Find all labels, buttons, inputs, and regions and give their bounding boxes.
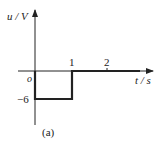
waveform-line (35, 71, 140, 99)
y-axis-label: u / V (7, 10, 29, 22)
x-tick-label-2: 2 (104, 56, 110, 68)
figure-caption: (a) (42, 126, 55, 139)
waveform-chart: u / V 1 2 o −6 t / s (a) (0, 0, 163, 146)
origin-label: o (27, 73, 32, 84)
x-axis-label: t / s (135, 74, 151, 86)
y-tick-label-neg6: −6 (17, 93, 29, 105)
x-tick-label-1: 1 (69, 56, 75, 68)
